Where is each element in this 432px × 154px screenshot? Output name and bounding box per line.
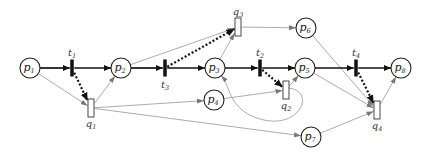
t1-label-sub: 1 xyxy=(72,52,76,60)
q2-label: q2 xyxy=(281,100,292,113)
p2-label-base: p xyxy=(114,61,121,74)
arc-p6-to-q4 xyxy=(313,36,374,106)
petri-net-diagram: p1p2p3p4p5p6p7p8t1t3t2t4q1q3q2q4 xyxy=(0,0,432,154)
arc-t1-to-q1 xyxy=(74,73,87,101)
arc-p7-to-q4 xyxy=(320,111,373,133)
transition-t4 xyxy=(354,60,358,77)
t3-label-sub: 3 xyxy=(165,84,169,92)
nodes: p1p2p3p4p5p6p7p8t1t3t2t4q1q3q2q4 xyxy=(20,6,411,147)
arc-q4-to-p8 xyxy=(381,77,397,104)
arc-p3-to-q3 xyxy=(220,33,235,59)
p1-label-base: p xyxy=(23,61,30,74)
q2-label-sub: 2 xyxy=(286,105,291,113)
p6-label-sub: 6 xyxy=(306,27,310,35)
p8-label-base: p xyxy=(394,61,401,74)
p5-label-sub: 5 xyxy=(305,67,309,75)
arc-q1-to-p4 xyxy=(95,101,205,108)
p3-label-base: p xyxy=(208,61,215,74)
p7-label-base: p xyxy=(304,130,311,143)
arc-q2-to-p5 xyxy=(290,76,299,86)
arc-t3-to-q3 xyxy=(167,29,234,67)
transition-t1 xyxy=(70,60,74,77)
p3-label-sub: 3 xyxy=(215,67,219,75)
arc-p1-to-q1 xyxy=(38,73,87,105)
t4-label: t4 xyxy=(352,47,360,60)
arc-t4-to-q4 xyxy=(358,73,373,104)
transition-t3 xyxy=(163,60,167,77)
q3-label: q3 xyxy=(233,6,244,19)
q-transition-q3 xyxy=(235,18,241,36)
q4-label: q4 xyxy=(372,120,383,133)
p5-label-base: p xyxy=(298,61,305,74)
t1-label: t1 xyxy=(68,47,76,60)
arc-q1-to-p2 xyxy=(95,76,116,103)
q-transition-q4 xyxy=(374,101,380,119)
q-transition-q2 xyxy=(283,81,289,99)
t4-label-sub: 4 xyxy=(355,52,360,60)
p6-label-base: p xyxy=(299,21,306,34)
arc-q2-to-p3 xyxy=(221,76,302,121)
transition-t2 xyxy=(258,60,262,77)
arc-t2-to-q2 xyxy=(262,70,282,87)
q3-label-sub: 3 xyxy=(239,11,243,19)
arc-q3-to-p6 xyxy=(242,27,297,28)
arc-p4-to-q2 xyxy=(224,90,283,98)
p4-label-base: p xyxy=(207,93,214,106)
arc-q1-to-p7 xyxy=(95,108,302,135)
t2-label: t2 xyxy=(256,47,264,60)
p1-label-sub: 1 xyxy=(30,67,34,75)
arc-p5-to-q4 xyxy=(314,73,374,108)
p2-label-sub: 2 xyxy=(120,67,125,75)
petri-net-svg: p1p2p3p4p5p6p7p8t1t3t2t4q1q3q2q4 xyxy=(0,0,432,154)
p4-label-sub: 4 xyxy=(213,99,218,107)
q-transition-q1 xyxy=(88,99,94,117)
p8-label-sub: 8 xyxy=(401,67,405,75)
t3-label: t3 xyxy=(161,79,169,92)
q1-label: q1 xyxy=(86,118,97,131)
q1-label-sub: 1 xyxy=(92,123,96,131)
q4-label-sub: 4 xyxy=(377,125,382,133)
t2-label-sub: 2 xyxy=(259,52,264,60)
